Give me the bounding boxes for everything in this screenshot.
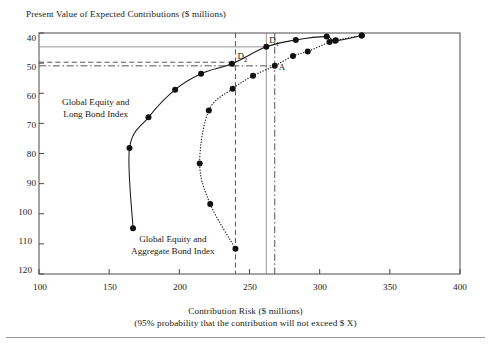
series-label-long-bond-line1: Global Equity and [62, 97, 129, 109]
data-point-s1-9 [326, 39, 332, 45]
data-point-s0-5 [229, 61, 235, 67]
data-point-s1-5 [250, 73, 256, 79]
data-point-s1-1 [207, 201, 213, 207]
annotation-a-text: A [279, 62, 286, 72]
data-point-s1-11 [359, 32, 365, 38]
page-rule [6, 337, 485, 338]
data-point-s1-6 [272, 63, 278, 69]
series-label-aggregate-bond: Global Equity and Aggregate Bond Index [131, 234, 215, 257]
series-label-aggregate-bond-line2: Aggregate Bond Index [131, 246, 215, 258]
data-point-s1-0 [232, 246, 238, 252]
data-point-s1-8 [305, 48, 311, 54]
series-label-aggregate-bond-line1: Global Equity and [131, 234, 215, 246]
data-point-s1-10 [333, 37, 339, 43]
data-point-s1-2 [197, 160, 203, 166]
chart-figure: Present Value of Expected Contributions … [0, 0, 491, 345]
annotation-d1: D1 [269, 35, 279, 47]
data-point-s0-0 [130, 225, 136, 231]
series-label-long-bond-line2: Long Bond Index [62, 109, 129, 121]
annotation-a: A [279, 62, 286, 72]
x-axis-sublabel: (95% probability that the contribution w… [0, 318, 491, 328]
data-point-s1-7 [290, 53, 296, 59]
annotation-d1-subscript: 1 [276, 40, 279, 47]
data-point-s1-4 [230, 86, 236, 92]
data-point-s0-7 [293, 37, 299, 43]
series-curve-0 [129, 35, 362, 228]
data-point-s0-1 [127, 145, 133, 151]
data-point-s0-3 [172, 87, 178, 93]
x-axis-label: Contribution Risk ($ millions) [0, 306, 491, 316]
series-label-long-bond: Global Equity and Long Bond Index [62, 97, 129, 120]
annotation-d2-subscript: 2 [244, 56, 247, 63]
annotation-d2: D2 [237, 51, 247, 63]
data-point-s1-3 [206, 107, 212, 113]
data-point-s0-2 [145, 114, 151, 120]
data-point-s0-8 [324, 34, 330, 40]
data-point-s0-4 [198, 71, 204, 77]
